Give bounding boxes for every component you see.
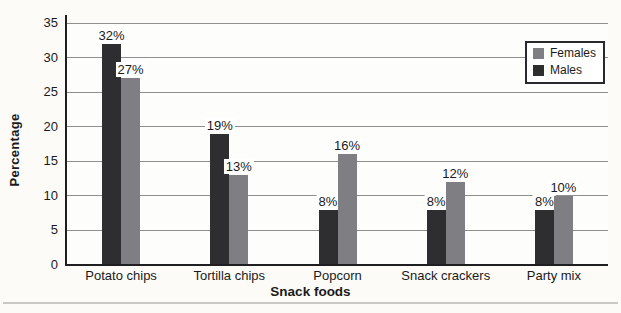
bar-value-label: 13% — [224, 159, 254, 174]
bar-value-label: 8% — [425, 194, 448, 209]
y-tick-label-15: 15 — [20, 153, 58, 169]
bar-group-potato-chips: 32%27% — [67, 23, 175, 265]
legend-label: Males — [550, 64, 582, 77]
bar-value-label: 8% — [533, 194, 556, 209]
bar-value-label: 12% — [440, 166, 470, 181]
bar-value-label: 10% — [548, 180, 578, 195]
legend: FemalesMales — [525, 41, 605, 84]
bar-females: 16% — [338, 154, 357, 265]
bar-males: 8% — [535, 210, 554, 265]
bar-value-label: 8% — [317, 194, 340, 209]
bar-females: 10% — [554, 196, 573, 265]
bottom-rule-divider — [3, 302, 618, 304]
category-label-party-mix: Party mix — [500, 268, 608, 283]
y-tick-label-20: 20 — [20, 119, 58, 135]
bar-females: 12% — [446, 182, 465, 265]
bar-females: 27% — [121, 78, 140, 265]
bar-value-label: 19% — [205, 118, 235, 133]
bar-group-popcorn: 8%16% — [283, 23, 391, 265]
bar-value-label: 27% — [116, 62, 146, 77]
category-label-snack-crackers: Snack crackers — [392, 268, 500, 283]
bar-females: 13% — [229, 175, 248, 265]
bar-group-snack-crackers: 8%12% — [392, 23, 500, 265]
bar-males: 19% — [210, 134, 229, 265]
y-axis-line — [65, 15, 67, 265]
x-axis-line — [65, 264, 608, 266]
bar-males: 8% — [427, 210, 446, 265]
category-labels-row: Potato chipsTortilla chipsPopcornSnack c… — [67, 268, 608, 283]
x-axis-title: Snack foods — [0, 284, 621, 299]
y-tick-label-30: 30 — [20, 50, 58, 66]
y-tick-label-35: 35 — [20, 15, 58, 31]
legend-label: Females — [550, 47, 596, 60]
legend-swatch-females — [533, 48, 544, 59]
bar-males: 8% — [319, 210, 338, 265]
bar-group-tortilla-chips: 19%13% — [175, 23, 283, 265]
bar-chart-figure: Percentage 05101520253035 32%27%19%13%8%… — [0, 0, 621, 313]
category-label-potato-chips: Potato chips — [67, 268, 175, 283]
category-label-tortilla-chips: Tortilla chips — [175, 268, 283, 283]
legend-item-males: Males — [533, 64, 596, 77]
bar-value-label: 16% — [332, 138, 362, 153]
y-tick-label-0: 0 — [20, 257, 58, 273]
category-label-popcorn: Popcorn — [283, 268, 391, 283]
bar-value-label: 32% — [97, 28, 127, 43]
legend-item-females: Females — [533, 47, 596, 60]
y-tick-label-10: 10 — [20, 188, 58, 204]
y-tick-label-25: 25 — [20, 84, 58, 100]
y-tick-label-5: 5 — [20, 222, 58, 238]
legend-swatch-males — [533, 65, 544, 76]
